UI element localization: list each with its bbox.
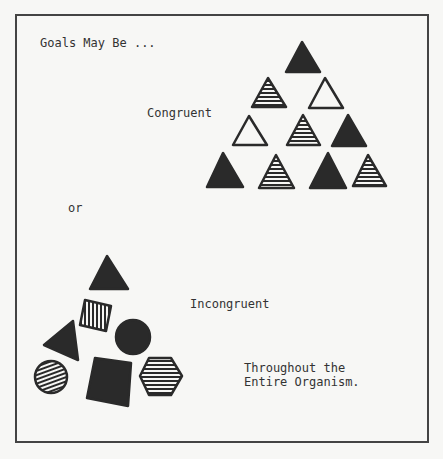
triangle-striped-icon	[259, 155, 294, 188]
triangle-outline-icon	[309, 78, 343, 108]
triangle-outline-icon	[233, 116, 267, 145]
triangle-striped-icon	[353, 155, 386, 186]
shapes-canvas	[0, 0, 443, 459]
triangle-solid-icon	[286, 42, 320, 72]
triangle-striped-icon	[252, 78, 286, 107]
triangle-solid-icon	[332, 115, 366, 146]
triangle-striped-icon	[287, 115, 320, 145]
triangle-solid-icon	[44, 321, 78, 360]
square-striped-icon	[80, 300, 111, 331]
square-solid-icon	[87, 358, 131, 406]
circle-striped-icon	[35, 361, 67, 393]
hexagon-striped-icon	[140, 358, 182, 395]
triangle-solid-icon	[310, 153, 346, 188]
triangle-solid-icon	[90, 256, 128, 289]
circle-solid-icon	[116, 320, 150, 354]
incongruent-shapes	[35, 256, 182, 406]
congruent-triangles	[207, 42, 386, 188]
triangle-solid-icon	[207, 153, 243, 187]
